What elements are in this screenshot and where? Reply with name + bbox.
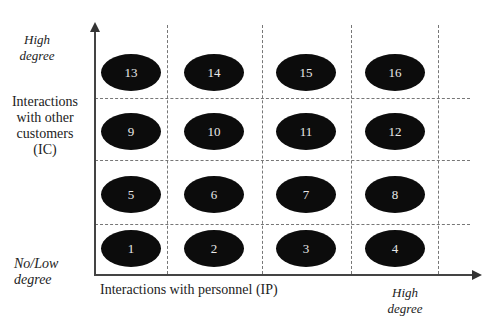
x-high-line-1: High [380,285,430,301]
y-low-line-1: No/Low [14,256,74,272]
grid-vline-1 [167,25,168,274]
y-high-line-1: High [12,32,62,48]
cell-5: 5 [101,176,161,213]
cell-14: 14 [184,54,244,91]
y-axis-line [94,30,96,275]
cell-6: 6 [184,176,244,213]
grid-vline-2 [262,25,263,274]
cell-10: 10 [184,113,244,150]
cell-4: 4 [365,230,425,267]
cell-16: 16 [365,54,425,91]
cell-1: 1 [101,230,161,267]
cell-12: 12 [365,113,425,150]
grid-vline-4 [438,25,439,274]
x-axis-high-label: High degree [380,285,430,317]
y-axis-low-label: No/Low degree [14,256,74,288]
x-axis-title: Interactions with personnel (IP) [100,282,320,298]
cell-13: 13 [101,54,161,91]
cell-15: 15 [276,54,336,91]
y-axis-arrow-icon [90,22,100,32]
x-axis-line [94,274,474,276]
x-high-line-2: degree [380,301,430,317]
y-high-line-2: degree [12,48,62,64]
grid-vline-3 [351,25,352,274]
y-title-line-1: Interactions [4,94,86,110]
cell-8: 8 [365,176,425,213]
x-axis-arrow-icon [472,270,482,280]
grid-hline-1 [95,98,470,99]
cell-9: 9 [101,113,161,150]
y-low-line-2: degree [14,272,74,288]
grid-hline-3 [95,224,470,225]
y-axis-title: Interactions with other customers (IC) [4,94,86,158]
y-title-line-2: with other [4,110,86,126]
cell-3: 3 [276,230,336,267]
cell-11: 11 [276,113,336,150]
grid-hline-2 [95,160,470,161]
cell-2: 2 [184,230,244,267]
y-title-line-3: customers [4,126,86,142]
cell-7: 7 [276,176,336,213]
y-axis-high-label: High degree [12,32,62,64]
y-title-line-4: (IC) [4,142,86,158]
